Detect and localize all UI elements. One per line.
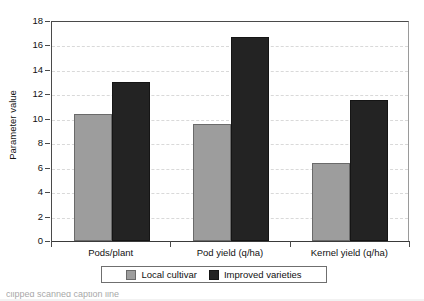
bar-improved-varieties <box>350 100 388 241</box>
x-axis-tick-mark <box>170 241 171 247</box>
legend-item-local-cultivar: Local cultivar <box>126 269 196 280</box>
legend-label-improved-varieties: Improved varieties <box>224 269 302 280</box>
clipped-caption-text: clipped scanned caption line <box>6 292 119 299</box>
y-axis-tick-mark <box>45 21 50 22</box>
x-axis-tick-label: Kernel yield (q/ha) <box>269 247 424 258</box>
y-axis-tick-label: 16 <box>0 39 49 51</box>
bar-chart-figure: Parameter value 024681012141618 Pods/pla… <box>0 0 424 301</box>
y-axis-tick-mark <box>45 192 50 193</box>
y-axis-tick-label: 6 <box>0 162 49 174</box>
y-axis-tick-label: 8 <box>0 137 49 149</box>
y-axis-tick-mark <box>45 45 50 46</box>
x-axis-tick-mark <box>409 241 410 247</box>
y-axis-tick-mark <box>45 94 50 95</box>
y-axis-tick-mark <box>45 143 50 144</box>
legend-label-local-cultivar: Local cultivar <box>141 269 196 280</box>
y-axis-tick-mark <box>45 70 50 71</box>
y-axis-tick-label: 4 <box>0 186 49 198</box>
x-axis-line <box>51 241 409 242</box>
y-axis-tick-mark <box>45 168 50 169</box>
y-axis-tick-label: 10 <box>0 113 49 125</box>
bar-local-cultivar <box>312 163 350 241</box>
bar-local-cultivar <box>74 114 112 241</box>
legend-item-improved-varieties: Improved varieties <box>209 269 302 280</box>
legend-swatch-grey-icon <box>126 270 136 280</box>
bar-local-cultivar <box>193 124 231 241</box>
chart-legend: Local cultivar Improved varieties <box>101 266 327 283</box>
x-axis-tick-mark <box>51 241 52 247</box>
y-axis-tick-label: 0 <box>0 235 49 247</box>
y-axis-tick-mark <box>45 217 50 218</box>
y-axis-title-label: Parameter value <box>7 90 18 160</box>
y-axis-tick-label: 12 <box>0 88 49 100</box>
bar-improved-varieties <box>112 82 150 241</box>
x-axis-tick-mark <box>290 241 291 247</box>
bar-series-container <box>52 22 408 241</box>
y-axis-tick-label: 14 <box>0 64 49 76</box>
y-axis-tick-mark <box>45 241 50 242</box>
y-axis-tick-mark <box>45 119 50 120</box>
y-axis-tick-label: 2 <box>0 211 49 223</box>
bar-improved-varieties <box>231 37 269 241</box>
y-axis-tick-label: 18 <box>0 15 49 27</box>
plot-area <box>51 21 409 241</box>
legend-swatch-black-icon <box>209 270 219 280</box>
